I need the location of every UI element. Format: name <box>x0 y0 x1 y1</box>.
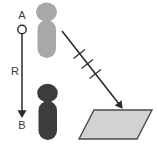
tick-marks <box>74 50 102 79</box>
diagonal-arrow-line <box>62 31 119 104</box>
physics-diagram: A R B <box>0 0 157 147</box>
diagram-canvas: A R B <box>0 0 157 147</box>
tick-mark <box>82 60 94 69</box>
inclined-plane-parallelogram <box>79 110 152 139</box>
diagonal-projection-arrow <box>62 31 119 104</box>
label-point-a: A <box>18 9 26 21</box>
label-point-b: B <box>18 119 25 131</box>
tick-mark <box>90 70 102 79</box>
point-a-marker <box>18 25 26 33</box>
label-distance-r: R <box>11 65 19 77</box>
person-silhouette-dark <box>37 84 58 140</box>
person-silhouette-light <box>36 3 57 59</box>
